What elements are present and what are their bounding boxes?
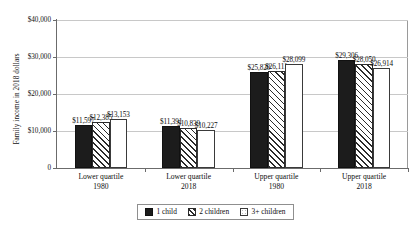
x-axis-category-label: Upper quartile2018 [320, 172, 408, 191]
bar-slot: $11,597 [75, 20, 93, 168]
legend-item-3plus-children: 3+ children [240, 207, 285, 216]
bar-group: $11,391$10,839$10,227 [145, 20, 233, 168]
bar[interactable]: $28,099 [285, 64, 303, 168]
y-tick-label: $40,000 [5, 16, 51, 24]
bar-group-bars: $11,391$10,839$10,227 [145, 20, 233, 168]
bar[interactable]: $13,153 [110, 119, 128, 168]
category-year: 2018 [145, 182, 233, 192]
x-axis-category-label: Lower quartile1980 [57, 172, 145, 191]
plot-area: $11,597$12,385$13,153$11,391$10,839$10,2… [57, 20, 408, 168]
bar-slot: $13,153 [110, 20, 128, 168]
legend-swatch-icon-3plus-children [240, 208, 248, 216]
bar[interactable]: $25,820 [250, 72, 268, 168]
legend-swatch-icon-2-children [188, 208, 196, 216]
category-name: Lower quartile [78, 172, 123, 181]
bar-slot: $28,099 [285, 20, 303, 168]
category-name: Upper quartile [254, 172, 298, 181]
bar[interactable]: $29,306 [338, 60, 356, 168]
bar[interactable]: $10,227 [197, 130, 215, 168]
bar[interactable]: $10,839 [180, 128, 198, 168]
category-year: 1980 [57, 182, 145, 192]
legend-label-2-children: 2 children [199, 207, 229, 216]
bar[interactable]: $11,597 [75, 125, 93, 168]
y-tick-label: $20,000 [5, 90, 51, 98]
legend-label-3plus-children: 3+ children [252, 207, 286, 216]
bar-group-bars: $11,597$12,385$13,153 [57, 20, 145, 168]
x-axis-category-label: Upper quartile1980 [233, 172, 321, 191]
legend-item-2-children: 2 children [188, 207, 229, 216]
legend-item-1-child: 1 child [145, 207, 177, 216]
chart-legend: 1 child 2 children 3+ children [137, 204, 294, 220]
category-year: 1980 [233, 182, 321, 192]
bar-chart: Family income in 2018 dollars $11,597$12… [0, 0, 418, 232]
y-tick-label: $10,000 [5, 127, 51, 135]
bar-slot: $26,111 [268, 20, 286, 168]
bar-value-label: $26,111 [265, 63, 287, 71]
y-tick-mark [53, 168, 57, 169]
bar-slot: $10,227 [197, 20, 215, 168]
category-year: 2018 [320, 182, 408, 192]
bar[interactable]: $28,050 [355, 64, 373, 168]
bar-group: $29,306$28,050$26,914 [320, 20, 408, 168]
y-tick-label: 0 [5, 164, 51, 172]
x-axis-category-label: Lower quartile2018 [145, 172, 233, 191]
category-name: Upper quartile [342, 172, 386, 181]
y-axis-title: Family income in 2018 dollars [13, 19, 21, 179]
bar-group-bars: $29,306$28,050$26,914 [320, 20, 408, 168]
bar[interactable]: $11,391 [162, 126, 180, 168]
bar-group-bars: $25,820$26,111$28,099 [233, 20, 321, 168]
bar-slot: $10,839 [180, 20, 198, 168]
bar-slot: $11,391 [162, 20, 180, 168]
bar-group: $11,597$12,385$13,153 [57, 20, 145, 168]
bar-group: $25,820$26,111$28,099 [233, 20, 321, 168]
y-tick-label: $30,000 [5, 53, 51, 61]
legend-label-1-child: 1 child [157, 207, 177, 216]
bar-value-label: $10,227 [195, 122, 218, 130]
category-name: Lower quartile [166, 172, 211, 181]
bar-value-label: $26,914 [370, 60, 393, 68]
bar-slot: $28,050 [355, 20, 373, 168]
bar[interactable]: $12,385 [92, 122, 110, 168]
bar-value-label: $13,153 [107, 111, 130, 119]
bar-slot: $26,914 [373, 20, 391, 168]
bar-value-label: $28,099 [283, 56, 306, 64]
bar-slot: $29,306 [338, 20, 356, 168]
bar[interactable]: $26,914 [373, 68, 391, 168]
bar-slot: $25,820 [250, 20, 268, 168]
bar-slot: $12,385 [92, 20, 110, 168]
x-tick-mark [408, 168, 409, 172]
legend-swatch-icon-1-child [145, 208, 153, 216]
bar[interactable]: $26,111 [268, 71, 286, 168]
